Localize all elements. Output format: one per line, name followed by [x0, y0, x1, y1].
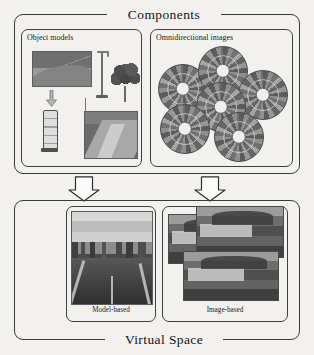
model-based-caption: Model-based	[76, 307, 146, 314]
skyline-silhouette	[72, 242, 152, 259]
object-models-panel-label: Object models	[27, 34, 73, 42]
traffic-signal-icon	[43, 110, 58, 150]
road-thumbnail-image	[84, 111, 138, 159]
figure-root: Components Object models Omnidirectional…	[0, 0, 314, 355]
lane-marking-center	[111, 276, 113, 304]
tree-trunk-icon	[124, 86, 126, 102]
terrain-thumbnail-image	[32, 51, 92, 87]
photo-mosaic-3	[183, 251, 279, 301]
tree-crown-icon	[111, 62, 140, 88]
fisheye-image-6	[214, 112, 264, 162]
street-lamp-pole-icon	[101, 53, 103, 96]
arrow-omni-images-to-image-based	[194, 176, 226, 202]
image-based-caption: Image-based	[190, 307, 260, 314]
arrow-object-models-to-model-based	[68, 176, 100, 202]
omnidirectional-images-panel-label: Omnidirectional images	[156, 34, 233, 42]
virtual-space-section-title: Virtual Space	[105, 333, 223, 347]
traffic-signal-base-icon	[41, 148, 58, 152]
components-section-title: Components	[107, 8, 221, 22]
fisheye-image-5	[160, 104, 210, 154]
object-models-inline-down-arrow-icon	[45, 90, 58, 107]
rendered-street-scene-image	[71, 211, 153, 305]
street-lamp-arm-icon	[107, 52, 109, 57]
